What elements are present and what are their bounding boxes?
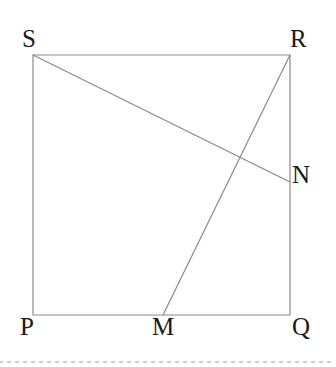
vertex-label-q: Q [292, 314, 310, 339]
geometry-figure: S R N P M Q [0, 0, 336, 367]
vertex-label-p: P [20, 314, 34, 339]
vertex-label-n: N [292, 162, 310, 187]
geometry-canvas [0, 0, 336, 367]
segment-s-to-n [33, 55, 290, 182]
vertex-label-s: S [22, 26, 36, 51]
vertex-label-m: M [152, 314, 174, 339]
vertex-label-r: R [290, 26, 307, 51]
square-pqrs [33, 55, 290, 315]
segment-m-to-r [163, 55, 290, 315]
